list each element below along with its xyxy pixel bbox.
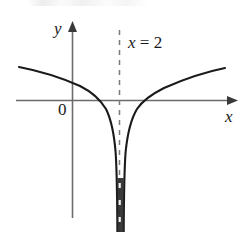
asymptote-label-value: 2 xyxy=(154,33,163,52)
origin-label: 0 xyxy=(58,101,67,118)
graph-canvas xyxy=(0,0,246,232)
asymptote-label: x = 2 xyxy=(128,34,162,51)
curve-right-branch xyxy=(124,68,225,232)
asymptote-label-variable: x xyxy=(128,33,136,52)
curve-left-branch xyxy=(19,67,117,232)
x-axis-arrowhead xyxy=(227,96,238,105)
math-figure: y x 0 x = 2 xyxy=(0,0,246,232)
y-axis-arrowhead xyxy=(68,21,77,32)
asymptote-dash-gap xyxy=(119,200,121,205)
x-axis-label: x xyxy=(225,108,233,125)
y-axis-label: y xyxy=(54,20,62,37)
asymptote-dash-gap xyxy=(119,217,121,222)
asymptote-dash-gap xyxy=(119,183,121,188)
asymptote-label-equals: = xyxy=(136,33,154,52)
